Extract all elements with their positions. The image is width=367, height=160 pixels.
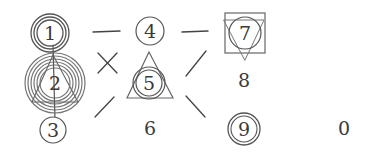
digit-7: 7 (239, 24, 251, 43)
digit-6: 6 (144, 119, 156, 138)
digit-3: 3 (47, 121, 59, 140)
slash-connector-2-6 (95, 97, 114, 117)
digit-5: 5 (143, 74, 155, 93)
digit-9: 9 (238, 120, 250, 139)
digit-2: 2 (49, 74, 61, 93)
digit-8: 8 (238, 71, 250, 90)
cross-connector-icon (98, 53, 117, 73)
slash-connector-5-7 (186, 51, 206, 76)
digit-1: 1 (44, 24, 56, 43)
backslash-connector-5-9 (186, 96, 205, 117)
dash-connector-4-7 (182, 31, 208, 32)
digit-4: 4 (144, 22, 156, 41)
dash-connector-1-4 (93, 31, 120, 32)
digit-0: 0 (338, 119, 350, 138)
